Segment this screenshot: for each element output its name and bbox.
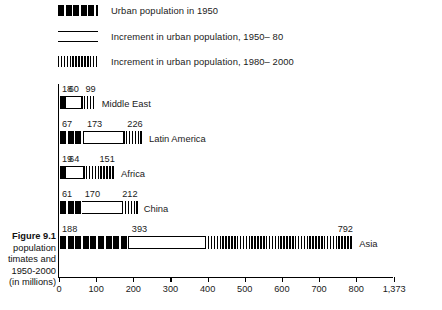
caption-line-4: (in millions) [0, 277, 56, 289]
plot-area: 01002003004005006007008001,373 186099Mid… [0, 0, 442, 310]
x-axis-tick [59, 277, 60, 282]
x-axis-tick-label: 0 [56, 284, 61, 294]
x-axis-tick [170, 277, 171, 282]
bar-segment-increment-1980-2000 [81, 96, 95, 109]
x-axis-tick-label: 600 [274, 284, 289, 294]
caption-line-3: 1950-2000 [0, 266, 56, 278]
x-axis-tick-label: 300 [163, 284, 178, 294]
bar-segment-urban-1950 [60, 236, 129, 249]
bar-value-1980: 64 [69, 154, 79, 164]
x-axis-tick-label: 500 [237, 284, 252, 294]
bar-value-2000: 792 [338, 224, 353, 234]
bar-value-1980: 60 [69, 84, 79, 94]
figure-caption: Figure 9.1 population timates and 1950-2… [0, 231, 56, 289]
bar-segment-increment-1980-2000 [83, 166, 115, 179]
caption-line-2: timates and [0, 254, 56, 266]
caption-line-1: population [0, 243, 56, 255]
bar-value-1980: 393 [132, 224, 147, 234]
bar-segment-urban-1950 [60, 131, 84, 144]
x-axis-line [58, 277, 393, 278]
bar-segment-urban-1950 [60, 201, 82, 214]
bar-value-2000: 212 [122, 189, 137, 199]
x-axis-tick [208, 277, 209, 282]
bar-segment-increment-1950-80 [84, 131, 123, 144]
bar-value-1950: 61 [62, 189, 72, 199]
bar-segment-increment-1950-80 [66, 166, 83, 179]
x-axis-tick-label: 200 [126, 284, 141, 294]
bar-segment-increment-1950-80 [82, 201, 122, 214]
bar-segment-increment-1980-2000 [123, 131, 143, 144]
x-axis-tick-label: 100 [88, 284, 103, 294]
bar-segment-increment-1950-80 [66, 96, 82, 109]
bar-value-1980: 170 [85, 189, 100, 199]
bar-value-2000: 226 [127, 119, 142, 129]
bar-value-1950: 188 [62, 224, 77, 234]
x-axis-tick-label: 400 [200, 284, 215, 294]
x-axis-tick-label: 1,373 [383, 284, 406, 294]
bar-segment-increment-1950-80 [129, 236, 205, 249]
x-axis-tick-label: 700 [311, 284, 326, 294]
x-axis-tick-label: 800 [349, 284, 364, 294]
bar-value-1980: 173 [87, 119, 102, 129]
x-axis-tick [245, 277, 246, 282]
bar-value-1950: 67 [62, 119, 72, 129]
bar-segment-increment-1980-2000 [205, 236, 353, 249]
x-axis-tick [133, 277, 134, 282]
bar-row [0, 201, 442, 214]
figure-container: Urban population in 1950 Increment in ur… [0, 0, 442, 310]
x-axis-tick [356, 277, 357, 282]
bar-value-2000: 151 [99, 154, 114, 164]
x-axis-tick [96, 277, 97, 282]
bar-row [0, 96, 442, 109]
figure-number: Figure 9.1 [0, 231, 56, 243]
bar-row [0, 166, 442, 179]
x-axis-tick [394, 277, 395, 282]
x-axis-tick [319, 277, 320, 282]
x-axis-tick [282, 277, 283, 282]
bar-row [0, 131, 442, 144]
bar-value-2000: 99 [85, 84, 95, 94]
bar-row [0, 236, 442, 249]
bar-segment-increment-1980-2000 [122, 201, 138, 214]
